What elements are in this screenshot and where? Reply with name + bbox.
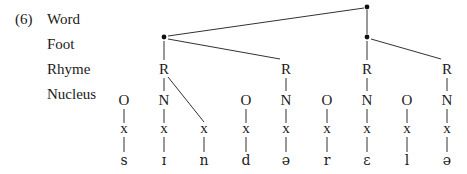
rhyme-node-2: R [362, 61, 372, 77]
onset-node-0: O [119, 92, 130, 108]
nucleus-node-8: N [442, 92, 453, 108]
word-node-dot [365, 5, 370, 10]
segment-3: d [242, 152, 251, 168]
skeletal-slot-0: x [120, 120, 128, 136]
onset-node-5: O [322, 92, 333, 108]
nucleus-node-6: N [362, 92, 373, 108]
skeletal-slot-2: x [200, 120, 208, 136]
tier-label-rhyme: Rhyme [47, 61, 91, 77]
segment-4: ə [282, 152, 290, 168]
example-number: (6) [15, 11, 33, 28]
rhyme-node-1: R [281, 61, 291, 77]
skeletal-slot-8: x [443, 120, 451, 136]
foot-node-dot-1 [365, 35, 370, 40]
tier-label-foot: Foot [47, 36, 75, 52]
edge-rhyme-coda-2 [168, 77, 204, 122]
segment-0: s [120, 152, 127, 168]
segment-8: ə [443, 152, 451, 168]
rhyme-node-3: R [442, 61, 452, 77]
segment-5: r [324, 152, 331, 168]
skeletal-slot-7: x [403, 120, 411, 136]
nucleus-node-1: N [159, 92, 170, 108]
prosodic-tree-diagram: (6) WordFootRhymeNucleus RRRROxsNxɪxnOxd… [0, 0, 467, 174]
skeletal-slot-6: x [363, 120, 371, 136]
rhyme-node-0: R [159, 61, 169, 77]
tier-label-word: Word [47, 11, 80, 27]
segment-6: ɛ [363, 152, 370, 168]
skeletal-slot-3: x [242, 120, 250, 136]
skeletal-slot-4: x [282, 120, 290, 136]
tier-labels: (6) WordFootRhymeNucleus [15, 11, 96, 102]
segment-2: n [199, 152, 208, 168]
skeletal-slot-1: x [160, 120, 168, 136]
tier-label-nucleus: Nucleus [47, 86, 96, 102]
edge-foot-rhyme-3 [371, 39, 441, 59]
edge-foot-rhyme-1 [168, 39, 280, 59]
segment-1: ɪ [162, 152, 167, 168]
segment-7: l [405, 152, 410, 168]
foot-node-dot-0 [162, 35, 167, 40]
onset-node-3: O [241, 92, 252, 108]
edge-word-foot-0 [168, 8, 364, 36]
skeletal-slot-5: x [323, 120, 331, 136]
nucleus-node-4: N [281, 92, 292, 108]
onset-node-7: O [402, 92, 413, 108]
